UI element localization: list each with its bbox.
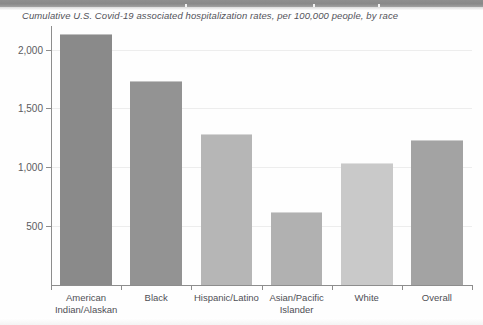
- x-tick-mark: [121, 285, 122, 290]
- x-tick-mark: [472, 285, 473, 290]
- y-tick-label: 2,000: [18, 44, 43, 55]
- bar-fill: [271, 212, 323, 286]
- gridline: [52, 108, 472, 109]
- x-axis-label: Overall: [393, 292, 480, 304]
- page-bottom-edge: [0, 318, 483, 325]
- y-tick-mark: [46, 50, 51, 51]
- bar: [411, 140, 463, 285]
- y-tick-mark: [46, 226, 51, 227]
- y-tick-label: 1,500: [18, 103, 43, 114]
- gridline: [52, 50, 472, 51]
- x-tick-mark: [332, 285, 333, 290]
- y-tick-mark: [46, 108, 51, 109]
- bar-fill: [341, 163, 393, 286]
- bar-fill: [60, 34, 112, 286]
- bar-fill: [130, 81, 182, 286]
- bar: [271, 212, 323, 285]
- chart-title: Cumulative U.S. Covid-19 associated hosp…: [22, 10, 398, 21]
- bar: [201, 134, 253, 285]
- y-axis-line: [51, 26, 52, 285]
- bar-fill: [411, 140, 463, 286]
- y-tick-label: 1,000: [18, 162, 43, 173]
- plot-area: 5001,0001,5002,000 American Indian/Alask…: [51, 26, 472, 285]
- bar: [130, 81, 182, 285]
- bar-fill: [201, 134, 253, 286]
- x-tick-mark: [51, 285, 52, 290]
- chart-page: Cumulative U.S. Covid-19 associated hosp…: [0, 0, 483, 325]
- gridline: [52, 226, 472, 227]
- top-banner-strip: [0, 0, 483, 7]
- gridline: [52, 167, 472, 168]
- y-tick-mark: [46, 167, 51, 168]
- x-tick-mark: [262, 285, 263, 290]
- x-tick-mark: [191, 285, 192, 290]
- bar: [341, 163, 393, 285]
- y-tick-label: 500: [26, 221, 43, 232]
- bar: [60, 34, 112, 285]
- x-tick-mark: [402, 285, 403, 290]
